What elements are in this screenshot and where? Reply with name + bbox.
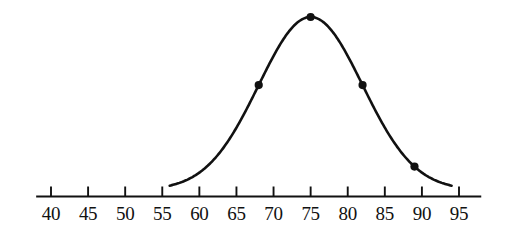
x-tick-label-70: 70 <box>264 203 282 225</box>
bell-curve-figure: 404550556065707580859095 <box>0 0 514 243</box>
data-point-minus-two-sigma-ish <box>410 162 418 170</box>
axis-tick-marks <box>51 187 459 197</box>
x-axis <box>36 187 481 197</box>
bell-curve-line <box>170 17 452 186</box>
x-tick-label-60: 60 <box>190 203 208 225</box>
x-tick-label-85: 85 <box>376 203 394 225</box>
x-tick-label-40: 40 <box>42 203 60 225</box>
x-tick-label-75: 75 <box>301 203 319 225</box>
normal-distribution-plot <box>0 0 514 243</box>
x-tick-label-55: 55 <box>153 203 171 225</box>
x-tick-label-65: 65 <box>227 203 245 225</box>
data-point-minus-one-sigma <box>255 81 263 89</box>
x-tick-label-95: 95 <box>450 203 468 225</box>
x-tick-label-45: 45 <box>79 203 97 225</box>
data-point-plus-one-sigma <box>358 81 366 89</box>
x-tick-label-50: 50 <box>116 203 134 225</box>
curve-group <box>170 17 452 186</box>
x-tick-label-90: 90 <box>413 203 431 225</box>
x-tick-label-80: 80 <box>339 203 357 225</box>
data-point-mean-peak <box>307 13 315 21</box>
